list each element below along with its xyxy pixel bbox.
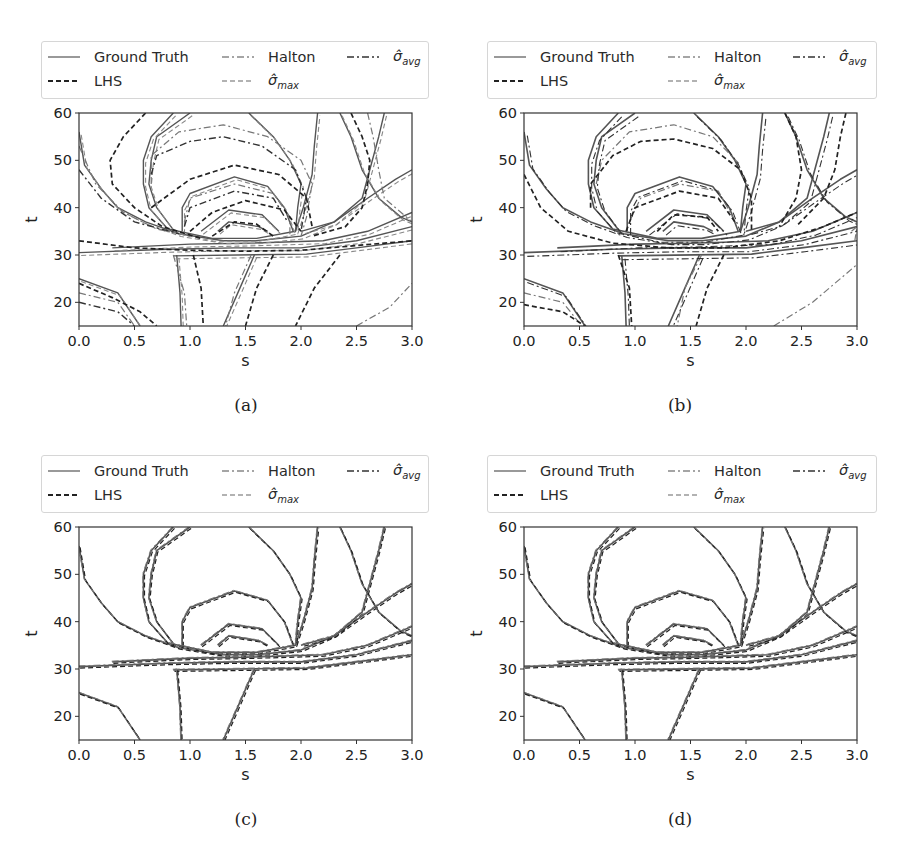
y-tick-label: 60 [499, 519, 517, 535]
y-tick-label: 30 [54, 247, 72, 263]
y-axis-label: t [467, 216, 486, 222]
x-tick-label: 0.0 [67, 333, 90, 349]
y-tick-label: 60 [54, 105, 72, 121]
y-tick-label: 40 [54, 614, 72, 630]
x-tick-label: 3.0 [845, 333, 868, 349]
x-tick-label: 1.0 [623, 333, 646, 349]
axes-frame [524, 113, 857, 326]
y-tick-label: 20 [499, 708, 517, 724]
x-tick-label: 3.0 [400, 333, 423, 349]
x-tick-label: 1.5 [234, 747, 257, 763]
contour-lines [79, 113, 414, 329]
x-tick-label: 0.5 [568, 333, 591, 349]
contour-plot-d: 0.00.51.01.52.02.53.02030405060st [445, 414, 910, 784]
x-tick-label: 1.5 [679, 747, 702, 763]
y-tick-label: 30 [499, 661, 517, 677]
y-tick-label: 40 [54, 200, 72, 216]
subfigure-b: Ground Truth LHS Halton σ̂max σ̂avg 0.00… [445, 0, 910, 432]
x-tick-label: 3.0 [400, 747, 423, 763]
x-tick-label: 1.0 [623, 747, 646, 763]
y-tick-label: 30 [499, 247, 517, 263]
x-tick-label: 1.5 [679, 333, 702, 349]
x-tick-label: 0.5 [123, 747, 146, 763]
contour-plot-c: 0.00.51.01.52.02.53.02030405060st [0, 414, 455, 784]
caption-b: (b) [650, 395, 710, 415]
x-tick-label: 0.5 [123, 333, 146, 349]
axes-frame [79, 527, 412, 740]
caption-d: (d) [650, 809, 710, 829]
x-axis-label: s [686, 351, 694, 370]
y-tick-label: 50 [54, 152, 72, 168]
contour-plot-b: 0.00.51.01.52.02.53.02030405060st [445, 0, 910, 370]
x-tick-label: 0.5 [568, 747, 591, 763]
y-axis-label: t [22, 216, 41, 222]
x-tick-label: 3.0 [845, 747, 868, 763]
x-axis-label: s [241, 765, 249, 784]
x-tick-label: 1.0 [178, 333, 201, 349]
axes-frame [79, 113, 412, 326]
x-tick-label: 0.0 [67, 747, 90, 763]
x-axis-label: s [686, 765, 694, 784]
y-tick-label: 50 [499, 566, 517, 582]
contour-lines [78, 526, 413, 741]
y-tick-label: 60 [499, 105, 517, 121]
contour-plot-a: 0.00.51.01.52.02.53.02030405060st [0, 0, 455, 370]
subfigure-a: Ground Truth LHS Halton σ̂max σ̂avg 0.00… [0, 0, 455, 432]
x-tick-label: 2.5 [790, 747, 813, 763]
y-tick-label: 40 [499, 200, 517, 216]
y-tick-label: 60 [54, 519, 72, 535]
y-tick-label: 20 [54, 708, 72, 724]
x-tick-label: 1.5 [234, 333, 257, 349]
y-tick-label: 20 [499, 294, 517, 310]
contour-lines [523, 526, 858, 741]
x-tick-label: 2.0 [734, 333, 757, 349]
x-tick-label: 2.0 [289, 333, 312, 349]
x-tick-label: 2.5 [790, 333, 813, 349]
caption-a: (a) [216, 395, 276, 415]
x-axis-label: s [241, 351, 249, 370]
x-tick-label: 1.0 [178, 747, 201, 763]
x-tick-label: 0.0 [512, 333, 535, 349]
y-tick-label: 50 [499, 152, 517, 168]
subfigure-c: Ground Truth LHS Halton σ̂max σ̂avg 0.00… [0, 414, 455, 864]
x-tick-label: 0.0 [512, 747, 535, 763]
x-tick-label: 2.0 [289, 747, 312, 763]
caption-c: (c) [216, 809, 276, 829]
x-tick-label: 2.0 [734, 747, 757, 763]
y-tick-label: 40 [499, 614, 517, 630]
x-tick-label: 2.5 [345, 747, 368, 763]
x-tick-label: 2.5 [345, 333, 368, 349]
y-tick-label: 50 [54, 566, 72, 582]
subfigure-d: Ground Truth LHS Halton σ̂max σ̂avg 0.00… [445, 414, 910, 864]
y-axis-label: t [467, 630, 486, 636]
y-tick-label: 30 [54, 661, 72, 677]
y-tick-label: 20 [54, 294, 72, 310]
y-axis-label: t [22, 630, 41, 636]
axes-frame [524, 527, 857, 740]
contour-lines [524, 113, 860, 330]
